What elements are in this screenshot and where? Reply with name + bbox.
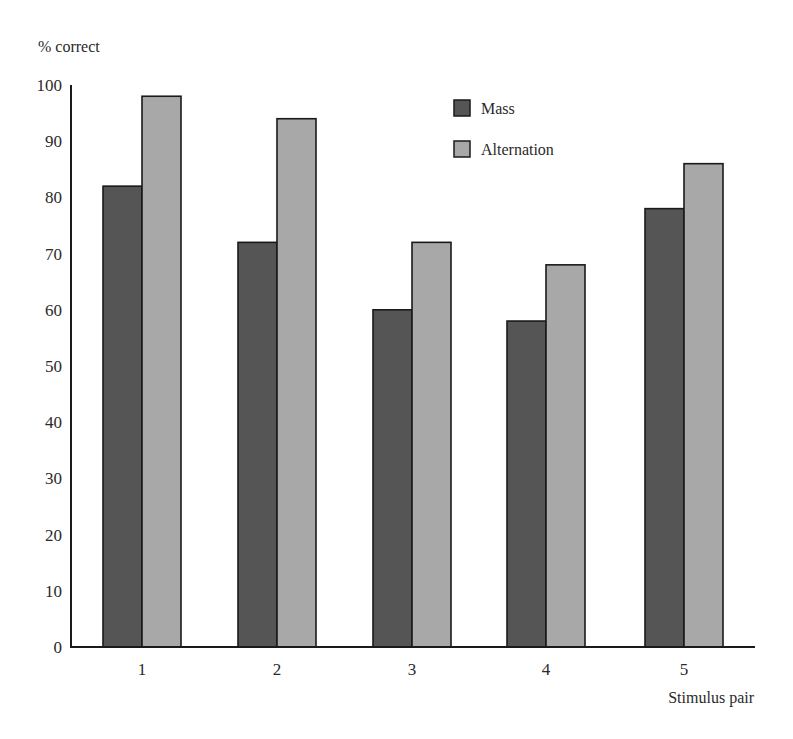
legend-swatch	[454, 100, 470, 116]
y-tick-label: 70	[45, 245, 62, 264]
bar-group-2	[238, 119, 316, 647]
bar-group-1	[103, 96, 181, 647]
x-tick-label: 3	[408, 660, 417, 679]
bar-alternation-1	[142, 96, 181, 647]
y-tick-label: 30	[45, 469, 62, 488]
bar-alternation-2	[277, 119, 316, 647]
y-tick-label: 40	[45, 413, 62, 432]
bar-alternation-5	[684, 164, 723, 647]
y-axis-title-text: % correct	[38, 38, 100, 55]
legend-label: Mass	[481, 100, 515, 117]
y-tick-label: 90	[45, 132, 62, 151]
bar-alternation-3	[412, 242, 451, 647]
bars	[103, 96, 723, 647]
bar-alternation-4	[546, 265, 585, 647]
bar-group-5	[645, 164, 723, 647]
legend-swatch	[454, 141, 470, 157]
bar-mass-1	[103, 186, 142, 647]
y-tick-label: 60	[45, 301, 62, 320]
y-tick-label: 50	[45, 357, 62, 376]
y-axis-title: % correct	[38, 38, 100, 55]
bar-mass-4	[507, 321, 546, 647]
bar-group-4	[507, 265, 585, 647]
y-tick-label: 10	[45, 582, 62, 601]
bar-mass-2	[238, 242, 277, 647]
x-tick-label: 2	[273, 660, 282, 679]
x-tick-label: 5	[680, 660, 689, 679]
bar-mass-3	[373, 310, 412, 647]
x-tick-label: 1	[138, 660, 147, 679]
bar-chart: % correct 0102030405060708090100 12345 S…	[0, 0, 793, 739]
y-tick-label: 0	[54, 638, 63, 657]
y-tick-label: 20	[45, 526, 62, 545]
x-axis-title: Stimulus pair	[668, 689, 754, 707]
legend-label: Alternation	[481, 141, 554, 158]
bar-mass-5	[645, 209, 684, 647]
x-axis-title-text: Stimulus pair	[668, 689, 754, 707]
x-axis-tick-labels: 12345	[138, 660, 689, 679]
bar-group-3	[373, 242, 451, 647]
legend-item-mass: Mass	[454, 100, 515, 117]
x-tick-label: 4	[542, 660, 551, 679]
legend-item-alternation: Alternation	[454, 141, 554, 158]
legend: MassAlternation	[454, 100, 554, 158]
y-tick-label: 100	[37, 76, 63, 95]
y-tick-label: 80	[45, 188, 62, 207]
y-axis-tick-labels: 0102030405060708090100	[37, 76, 63, 657]
